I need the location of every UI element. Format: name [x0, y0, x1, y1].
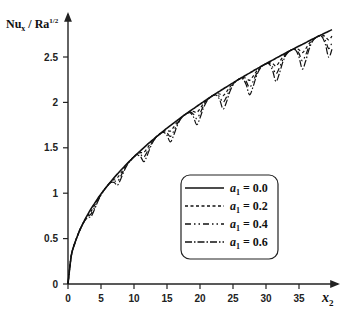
x-tick-label: 20 — [194, 293, 206, 304]
nusselt-chart: 00.511.522.5 05101520253035 Nux / Ra1/2 … — [0, 0, 347, 318]
y-tick-label: 2.5 — [44, 52, 58, 63]
y-tick-label: 1 — [52, 188, 58, 199]
x-tick-label: 15 — [161, 293, 173, 304]
y-axis-title: Nux / Ra1/2 — [6, 17, 59, 33]
x-tick-label: 35 — [293, 293, 305, 304]
x-ticks: 05101520253035 — [65, 284, 305, 304]
x-axis-title: x2 — [321, 290, 334, 308]
x-tick-label: 10 — [128, 293, 140, 304]
legend-label: a1 = 0.2 — [230, 199, 268, 215]
legend-label: a1 = 0.6 — [230, 235, 268, 251]
x-tick-label: 25 — [227, 293, 239, 304]
legend: a1 = 0.0a1 = 0.2a1 = 0.4a1 = 0.6 — [181, 175, 278, 259]
legend-label: a1 = 0.4 — [230, 217, 268, 233]
x-tick-label: 5 — [98, 293, 104, 304]
y-tick-label: 0.5 — [44, 233, 58, 244]
y-tick-label: 1.5 — [44, 142, 58, 153]
legend-label: a1 = 0.0 — [230, 181, 268, 197]
y-tick-label: 2 — [52, 97, 58, 108]
y-tick-label: 0 — [52, 279, 58, 290]
y-ticks: 00.511.522.5 — [44, 52, 68, 290]
x-tick-label: 0 — [65, 293, 71, 304]
x-tick-label: 30 — [260, 293, 272, 304]
